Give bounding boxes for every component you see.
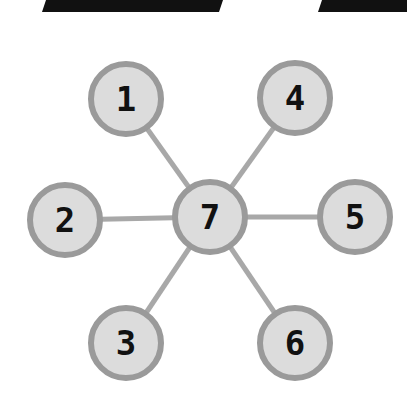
node-4: 4 bbox=[260, 63, 330, 133]
node-2: 2 bbox=[30, 185, 100, 255]
graph-nodes: 1234567 bbox=[30, 63, 390, 378]
node-label: 1 bbox=[116, 79, 136, 119]
node-label: 3 bbox=[116, 323, 136, 363]
node-1: 1 bbox=[91, 64, 161, 134]
node-3: 3 bbox=[91, 308, 161, 378]
node-label: 4 bbox=[285, 78, 305, 118]
star-graph-diagram: 1234567 bbox=[0, 0, 407, 400]
node-6: 6 bbox=[260, 308, 330, 378]
top-bar-1 bbox=[42, 0, 223, 12]
node-label: 6 bbox=[285, 323, 305, 363]
top-bar-2 bbox=[318, 0, 407, 12]
node-7: 7 bbox=[175, 182, 245, 252]
node-label: 7 bbox=[200, 197, 220, 237]
node-5: 5 bbox=[320, 182, 390, 252]
node-label: 2 bbox=[55, 200, 75, 240]
top-decorative-bars bbox=[42, 0, 407, 12]
node-label: 5 bbox=[345, 197, 365, 237]
